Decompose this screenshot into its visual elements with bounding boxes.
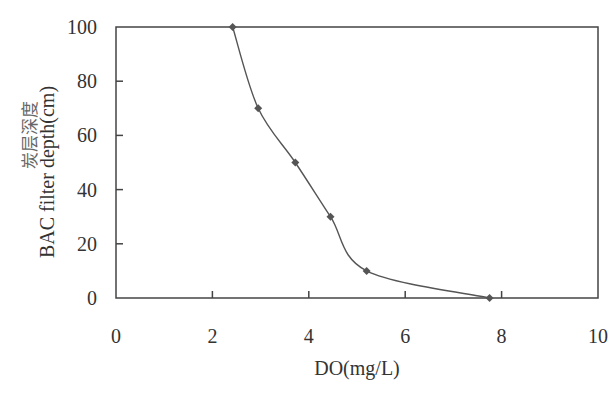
- x-tick-label: 10: [588, 325, 608, 347]
- data-point-marker: [254, 104, 262, 112]
- y-tick-label: 20: [77, 233, 97, 255]
- x-tick-label: 8: [497, 325, 507, 347]
- x-axis-title: DO(mg/L): [314, 357, 400, 380]
- data-point-marker: [363, 267, 371, 275]
- x-tick-label: 6: [400, 325, 410, 347]
- line-chart: 0246810020406080100DO(mg/L)BAC filter de…: [0, 0, 615, 400]
- series-line: [233, 27, 490, 298]
- data-point-marker: [291, 159, 299, 167]
- y-tick-label: 0: [87, 287, 97, 309]
- y-axis-title-secondary: 炭层深度: [20, 101, 40, 169]
- y-tick-label: 100: [67, 16, 97, 38]
- data-point-marker: [326, 213, 334, 221]
- data-point-marker: [486, 294, 494, 302]
- x-tick-label: 0: [111, 325, 121, 347]
- y-tick-label: 40: [77, 179, 97, 201]
- data-point-marker: [229, 23, 237, 31]
- x-tick-label: 2: [207, 325, 217, 347]
- y-tick-label: 80: [77, 70, 97, 92]
- plot-frame: [116, 27, 598, 298]
- x-tick-label: 4: [304, 325, 314, 347]
- y-tick-label: 60: [77, 124, 97, 146]
